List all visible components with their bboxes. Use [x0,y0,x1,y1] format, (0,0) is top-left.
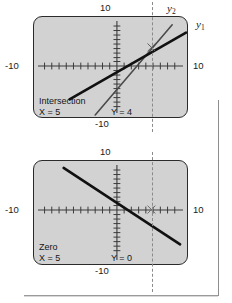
readout-title-intersection: Intersection [39,96,86,106]
curve-y2 [95,25,172,115]
curve-label-y1-subscript: 1 [201,23,205,32]
axis-label-left-intersection: -10 [5,61,19,71]
axis-label-right-zero: 10 [193,205,204,215]
curve-label-y2-subscript: 2 [172,7,176,16]
vertical-dashed-trace-intersection [152,2,153,132]
readout-x-intersection: X = 5 [39,107,60,117]
readout-y-intersection: Y = 4 [111,107,132,117]
page-rule-bottom-shadow [24,296,218,297]
axis-label-right-intersection: 10 [193,61,204,71]
axis-label-top-zero: 10 [100,147,111,157]
axis-label-bottom-intersection: -10 [95,119,109,129]
curve-difference [64,168,180,245]
curve-label-y1: y1 [196,18,205,30]
page-rule-right [218,100,219,296]
axis-label-top-intersection: 10 [100,3,111,13]
readout-title-zero: Zero [39,242,58,252]
vertical-dashed-trace-zero [152,152,153,292]
axis-label-left-zero: -10 [5,205,19,215]
readout-x-zero: X = 5 [39,253,60,263]
readout-y-zero: Y = 0 [111,253,132,263]
curve-label-y2: y2 [167,2,176,14]
axis-label-bottom-zero: -10 [95,266,109,276]
figure-page: 10 -10 10 -10 y2 y1 Intersection X = 5 Y… [0,0,232,303]
